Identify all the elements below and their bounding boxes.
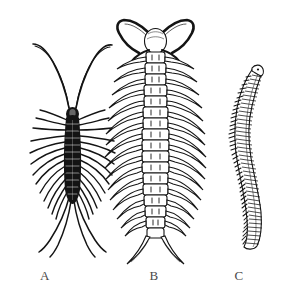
specimen-label-c: C: [229, 268, 249, 284]
specimen-a-trunk: [64, 115, 81, 204]
specimen-label-b: B: [144, 268, 164, 284]
specimen-b-legs-left: [105, 57, 146, 236]
specimen-a-antennae: [33, 44, 112, 108]
specimen-c-millipede: [229, 65, 263, 249]
illustration-plate: .ink { fill:#141414; } .inkstroke { stro…: [0, 0, 291, 300]
specimen-a-house-centipede: [30, 44, 115, 257]
myriapod-figure-svg: .ink { fill:#141414; } .inkstroke { stro…: [0, 0, 291, 300]
specimen-b-legs-right: [165, 57, 206, 236]
specimen-label-a: A: [35, 268, 55, 284]
specimen-b-centipede: [105, 20, 206, 264]
specimen-b-trunk: [142, 52, 169, 238]
specimen-b-terminal-legs: [127, 236, 184, 264]
specimen-c-body: [235, 67, 262, 249]
